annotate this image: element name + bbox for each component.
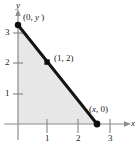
label-midpoint: (1, 2) (54, 54, 74, 63)
label-y-intercept: (0, y ) (23, 13, 44, 22)
x-axis-arrowhead (124, 121, 131, 126)
label-y-intercept-suffix: ) (39, 12, 44, 22)
x-tick-label-1: 1 (45, 134, 50, 143)
y-tick-label-1: 1 (5, 89, 10, 98)
x-tick-label-3: 3 (108, 134, 113, 143)
x-axis-label: x (131, 119, 135, 128)
label-x-intercept-suffix: , 0) (96, 104, 108, 114)
coordinate-plane-svg (0, 0, 139, 144)
point-x-intercept (94, 121, 101, 128)
y-axis-label: y (16, 1, 20, 10)
y-tick-label-2: 2 (5, 58, 10, 67)
x-tick-label-2: 2 (76, 134, 81, 143)
point-y-intercept (15, 22, 21, 28)
label-y-intercept-prefix: (0, (23, 12, 35, 22)
point-midpoint (44, 59, 49, 64)
label-x-intercept: (x, 0) (89, 105, 108, 114)
y-tick-label-3: 3 (5, 28, 10, 37)
graph-figure: y x 3 2 1 1 2 3 (0, y ) (1, 2) (x, 0) (0, 0, 139, 144)
y-axis-arrowhead (15, 9, 20, 16)
